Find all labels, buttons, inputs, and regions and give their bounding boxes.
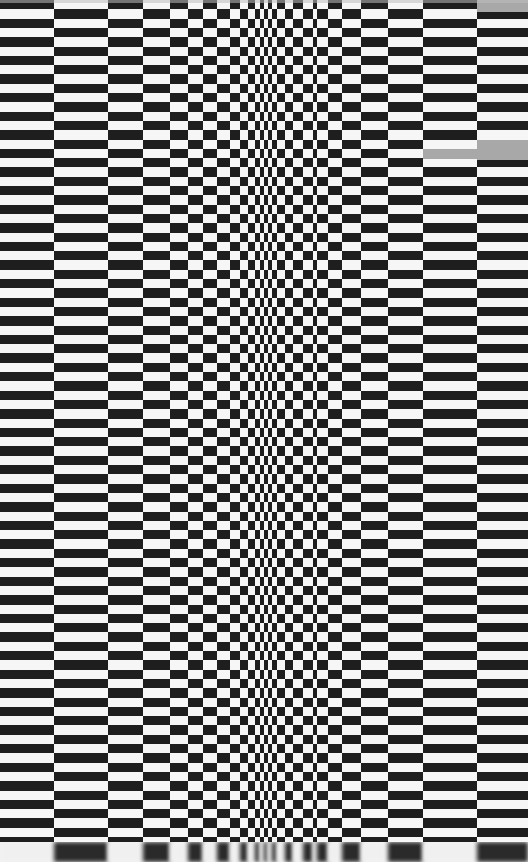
art-column	[388, 0, 423, 842]
reflection-column	[317, 842, 328, 862]
reflection-column	[188, 842, 203, 862]
reflection-column	[388, 842, 423, 862]
gray-patch	[477, 140, 528, 160]
reflection-column	[477, 842, 528, 862]
art-column	[342, 0, 361, 842]
art-column	[203, 0, 217, 842]
art-column	[277, 0, 285, 842]
reflection-column	[293, 842, 303, 862]
reflection-column	[143, 842, 170, 862]
art-column	[240, 0, 248, 842]
art-column	[423, 0, 477, 842]
art-column	[108, 0, 143, 842]
art-column	[248, 0, 255, 842]
reflection-column	[248, 842, 255, 862]
art-column	[317, 0, 328, 842]
reflection-column	[54, 842, 108, 862]
reflection-column	[285, 842, 293, 862]
reflection-column	[108, 842, 143, 862]
art-column	[143, 0, 170, 842]
art-column	[361, 0, 388, 842]
art-column	[230, 0, 240, 842]
reflection-column	[0, 842, 54, 862]
reflection-column	[423, 842, 477, 862]
reflection-column	[277, 842, 285, 862]
art-column	[285, 0, 293, 842]
reflection-column	[303, 842, 313, 862]
art-column	[188, 0, 203, 842]
op-art-checkerboard	[0, 0, 528, 842]
reflection-strip	[0, 842, 528, 862]
reflection-column	[328, 842, 342, 862]
reflection-column	[170, 842, 188, 862]
art-column	[328, 0, 342, 842]
gray-patch	[423, 149, 477, 159]
art-column	[0, 0, 54, 842]
art-column	[303, 0, 313, 842]
reflection-column	[342, 842, 361, 862]
reflection-column	[217, 842, 230, 862]
reflection-column	[361, 842, 388, 862]
top-edge	[0, 0, 528, 3]
reflection-column	[203, 842, 217, 862]
art-column	[54, 0, 108, 842]
art-column	[293, 0, 303, 842]
reflection-column	[230, 842, 240, 862]
art-column	[170, 0, 188, 842]
art-column	[217, 0, 230, 842]
reflection-column	[240, 842, 248, 862]
art-column	[477, 0, 528, 842]
